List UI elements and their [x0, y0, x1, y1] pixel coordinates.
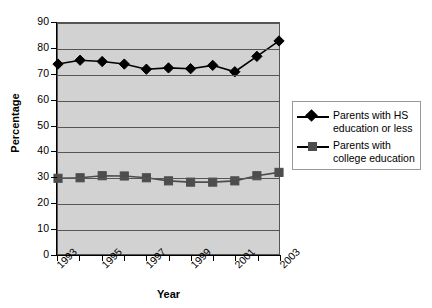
y-axis-tick [51, 177, 57, 178]
legend-item-hs-education: Parents with HS education or less [297, 109, 412, 135]
legend-label-college-line1: Parents with [333, 139, 391, 151]
y-axis-tick [51, 74, 57, 75]
x-axis-title: Year [57, 288, 280, 300]
data-point-diamond [141, 64, 151, 74]
data-point-diamond [97, 56, 107, 66]
data-point-diamond [274, 36, 284, 46]
y-axis-tick-label: 30 [1, 171, 49, 182]
y-axis-tick-label: 20 [1, 197, 49, 208]
legend-label-hs-line1: Parents with HS [333, 109, 408, 121]
data-point-diamond [208, 60, 218, 70]
plot-area [57, 22, 280, 255]
gridline [58, 230, 279, 231]
chart-legend: Parents with HS education or less Parent… [292, 101, 421, 170]
y-axis-tick-label: 70 [1, 68, 49, 79]
legend-label-college-line2: college education [333, 152, 415, 164]
y-axis-tick-label: 0 [1, 249, 49, 260]
data-point-square [275, 168, 283, 176]
y-axis-tick [51, 229, 57, 230]
data-point-diamond [252, 51, 262, 61]
y-axis-tick [51, 203, 57, 204]
data-point-diamond [53, 59, 63, 69]
gridline [58, 49, 279, 50]
series-layer [58, 23, 279, 254]
x-axis-tick [258, 255, 259, 261]
gridline [58, 178, 279, 179]
x-axis-tick [169, 255, 170, 261]
data-point-diamond [163, 63, 173, 73]
data-point-diamond [185, 64, 195, 74]
y-axis-tick [51, 151, 57, 152]
y-axis-tick-labels: 0102030405060708090 [0, 0, 49, 308]
x-axis-tick [124, 255, 125, 261]
gridline [58, 204, 279, 205]
legend-label-hs-line2: education or less [333, 122, 412, 134]
gridline [58, 152, 279, 153]
y-axis-tick-label: 10 [1, 223, 49, 234]
y-axis-tick [51, 126, 57, 127]
gridline [58, 23, 279, 24]
x-axis-tick [213, 255, 214, 261]
legend-label-hs-education: Parents with HS education or less [329, 109, 412, 135]
line-chart-figure: 0102030405060708090 Percentage Year Pare… [0, 0, 432, 308]
legend-item-college-education: Parents with college education [297, 139, 415, 165]
y-axis-tick [51, 100, 57, 101]
data-point-diamond [119, 59, 129, 69]
x-axis-tick [79, 255, 80, 261]
y-axis-tick [51, 22, 57, 23]
gridline [58, 101, 279, 102]
gridline [58, 75, 279, 76]
y-axis-tick [51, 48, 57, 49]
y-axis-tick-label: 90 [1, 16, 49, 27]
diamond-marker-icon [297, 110, 329, 124]
y-axis-title: Percentage [9, 83, 21, 163]
gridline [58, 127, 279, 128]
y-axis-tick-label: 80 [1, 42, 49, 53]
data-point-diamond [75, 55, 85, 65]
legend-label-college-education: Parents with college education [329, 139, 415, 165]
x-axis-tick-label: 2003 [277, 245, 302, 270]
square-marker-icon [297, 140, 329, 154]
